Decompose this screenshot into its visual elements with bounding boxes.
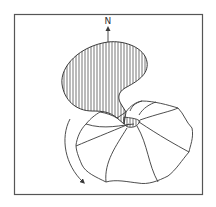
hatched-lobe: [62, 42, 147, 124]
north-label: N: [105, 16, 112, 26]
central-hub: [124, 117, 140, 127]
curved-rotation-arrow: [65, 119, 83, 182]
north-arrow: N: [105, 16, 112, 42]
scalloped-rosette-body: [76, 101, 193, 184]
diagram-canvas: N: [0, 0, 216, 207]
